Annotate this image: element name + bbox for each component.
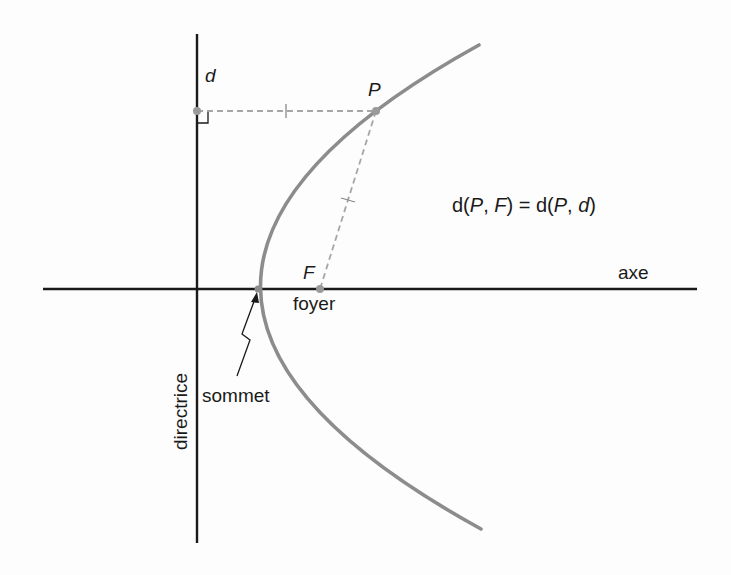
point-f-label: F — [303, 263, 315, 282]
point-p-label: P — [368, 80, 381, 99]
eq-rhs-close: ) — [589, 194, 596, 216]
point-p-marker — [372, 107, 380, 115]
focus-marker — [316, 285, 324, 293]
parabola-diagram: d P F foyer axe sommet directrice d(P, F… — [0, 0, 731, 575]
diagram-canvas — [0, 0, 731, 575]
eq-lhs-sep: , — [483, 194, 494, 216]
eq-rhs-func: d( — [536, 194, 554, 216]
focus-label: foyer — [293, 294, 335, 313]
eq-rhs-p: P — [554, 194, 567, 216]
eq-lhs-func: d( — [452, 194, 470, 216]
equation: d(P, F) = d(P, d) — [452, 195, 596, 215]
eq-lhs-f: F — [494, 194, 506, 216]
vertex-label: sommet — [202, 386, 270, 405]
parabola-curve — [260, 45, 481, 529]
eq-equals: = — [513, 194, 536, 216]
axis-label: axe — [618, 263, 649, 282]
eq-lhs-p: P — [470, 194, 483, 216]
directrix-foot-marker — [193, 107, 201, 115]
vertex-pointer-arrow — [237, 296, 256, 376]
eq-rhs-d: d — [578, 194, 589, 216]
eq-rhs-sep: , — [567, 194, 578, 216]
directrix-label: directrice — [171, 373, 190, 450]
vertex-marker — [255, 286, 262, 293]
arrowhead-icon — [251, 292, 259, 303]
directrix-name-label: d — [205, 66, 216, 85]
